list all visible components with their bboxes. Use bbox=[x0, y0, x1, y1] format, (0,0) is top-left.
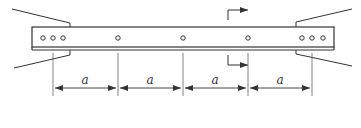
bolt-hole bbox=[41, 36, 45, 40]
bolt-hole bbox=[51, 36, 55, 40]
bolt-hole bbox=[246, 36, 250, 40]
bolt-hole bbox=[61, 36, 65, 40]
beam-diagram: a a a a bbox=[0, 0, 361, 128]
bolt-hole bbox=[300, 36, 304, 40]
bolt-hole bbox=[310, 36, 314, 40]
dimension-label: a bbox=[146, 73, 153, 87]
dimension-label: a bbox=[81, 73, 88, 87]
bolt-hole bbox=[321, 36, 325, 40]
bolt-hole bbox=[181, 36, 185, 40]
bolt-holes bbox=[41, 36, 325, 40]
dimension-label: a bbox=[276, 73, 283, 87]
extension-lines bbox=[53, 53, 312, 96]
section-marker bbox=[228, 10, 248, 65]
bolt-hole bbox=[116, 36, 120, 40]
dimension-label: a bbox=[211, 73, 218, 87]
